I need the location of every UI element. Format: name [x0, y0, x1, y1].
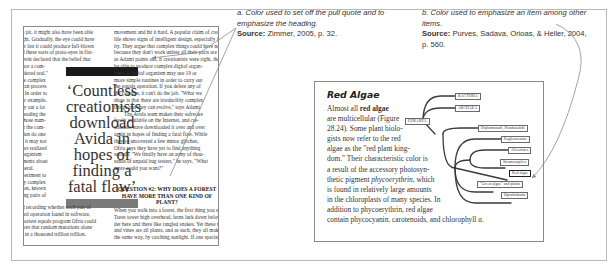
callout-b-to-red-algae [532, 24, 581, 178]
arrowhead-icon [152, 56, 156, 60]
arrowhead-icon [532, 174, 537, 178]
callout-a-to-quote [152, 28, 236, 58]
callout-lines [0, 0, 616, 268]
